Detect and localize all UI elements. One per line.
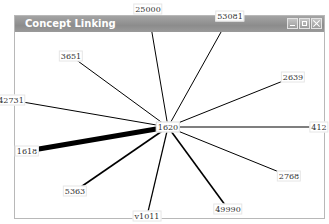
edge-53081 [168,32,230,127]
concept-node[interactable]: 1618 [15,146,39,157]
concept-linking-window: Concept Linking 250005308136512639427314… [14,15,325,219]
maximize-button[interactable] [299,18,310,29]
window-title: Concept Linking [25,17,116,31]
edge-25000 [148,32,168,127]
edge-2639 [168,77,293,127]
concept-node[interactable]: 2768 [277,171,301,182]
concept-node[interactable]: 2639 [281,72,305,83]
window-controls [287,18,322,29]
edge-1618 [27,127,168,151]
concept-node[interactable]: 25000 [133,4,162,15]
title-bar[interactable]: Concept Linking [15,16,324,32]
graph-canvas[interactable]: 2500053081365126394273141216182768536349… [15,32,324,218]
concept-node[interactable]: 53081 [215,11,244,22]
concept-node[interactable]: 3651 [59,51,83,62]
edge-42731 [15,100,168,127]
concept-node[interactable]: v1011 [133,211,162,222]
concept-node[interactable]: 5363 [63,186,87,197]
concept-node[interactable]: 49990 [213,204,242,215]
concept-node[interactable]: 42731 [0,95,26,106]
center-node[interactable]: 1620 [156,122,180,133]
concept-node[interactable]: 412 [309,122,328,133]
close-button[interactable] [311,18,322,29]
edge-3651 [71,56,168,127]
edge-v1011 [147,127,168,216]
minimize-button[interactable] [287,18,298,29]
